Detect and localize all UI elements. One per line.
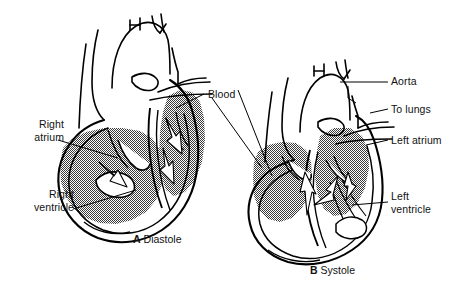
- label-right-ventricle-line2: ventricle: [14, 201, 74, 214]
- label-left-ventricle-line1: Left: [391, 190, 431, 203]
- heart-diastole-systole-figure: [0, 0, 455, 298]
- label-left-ventricle: Left ventricle: [391, 190, 431, 215]
- caption-diastole-letter: A: [133, 233, 141, 245]
- label-right-atrium-line1: Right: [18, 118, 64, 131]
- label-blood: Blood: [208, 88, 235, 101]
- caption-systole: BSystole: [310, 264, 355, 276]
- caption-diastole-text: Diastole: [144, 233, 182, 245]
- label-right-atrium: Right atrium: [18, 118, 64, 143]
- label-left-atrium: Left atrium: [391, 134, 442, 147]
- label-aorta: Aorta: [391, 75, 417, 88]
- label-right-ventricle-line1: Right: [14, 188, 74, 201]
- label-to-lungs: To lungs: [391, 103, 431, 116]
- caption-systole-letter: B: [310, 264, 318, 276]
- caption-diastole: ADiastole: [133, 233, 182, 245]
- systole-papillary-muscle: [336, 217, 367, 239]
- label-right-ventricle: Right ventricle: [14, 188, 74, 213]
- label-left-ventricle-line2: ventricle: [391, 203, 431, 216]
- label-right-atrium-line2: atrium: [18, 131, 64, 144]
- caption-systole-text: Systole: [321, 264, 355, 276]
